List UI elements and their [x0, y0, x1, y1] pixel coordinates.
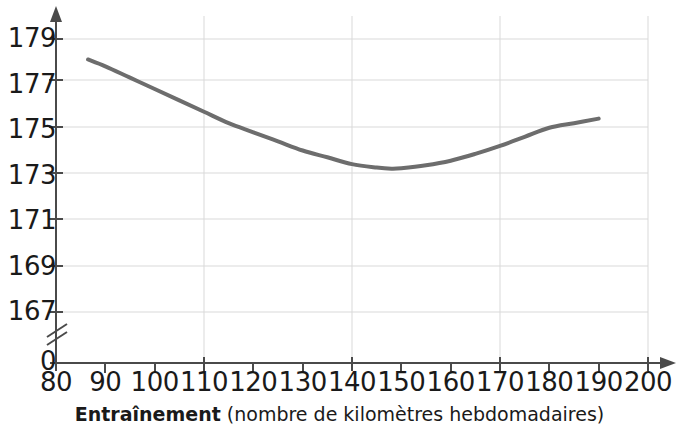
x-tick-label-90: 90: [89, 368, 121, 396]
x-tick-label-80: 80: [40, 368, 72, 396]
x-tick-label-140: 140: [328, 368, 376, 396]
x-tick-label-100: 100: [131, 368, 179, 396]
x-tick-label-180: 180: [525, 368, 573, 396]
x-tick-label-150: 150: [377, 368, 425, 396]
x-tick-label-160: 160: [427, 368, 475, 396]
x-tick-label-110: 110: [180, 368, 228, 396]
x-axis-tick-labels: 8090100110120130140150160170180190200: [0, 0, 679, 434]
chart-container: 1671691711731751771790 80901001101201301…: [0, 0, 679, 434]
x-tick-label-190: 190: [575, 368, 623, 396]
x-axis-caption: Entraînement (nombre de kilomètres hebdo…: [0, 402, 679, 426]
x-tick-label-120: 120: [229, 368, 277, 396]
x-tick-label-170: 170: [476, 368, 524, 396]
x-tick-label-130: 130: [279, 368, 327, 396]
x-tick-label-200: 200: [624, 368, 672, 396]
x-axis-caption-strong: Entraînement: [75, 403, 221, 425]
x-axis-caption-rest: (nombre de kilomètres hebdomadaires): [221, 403, 604, 425]
